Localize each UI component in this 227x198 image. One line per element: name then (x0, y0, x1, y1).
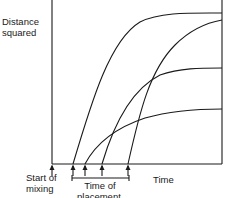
arrowhead-icon (126, 165, 131, 171)
arrowhead-icon (71, 165, 76, 171)
arrowhead-icon (83, 165, 88, 171)
curve-4 (128, 20, 222, 164)
y-axis-label: Distance squared (2, 17, 39, 38)
curve-2 (85, 109, 222, 164)
curve-1 (73, 13, 222, 164)
arrowhead-icon (50, 165, 55, 171)
start-of-mixing-label: Start of mixing (26, 173, 57, 194)
x-axis-label: Time (153, 175, 174, 186)
arrowhead-icon (100, 165, 105, 171)
time-of-placement-label: Time of placement (79, 181, 121, 198)
curve-3 (102, 68, 222, 164)
